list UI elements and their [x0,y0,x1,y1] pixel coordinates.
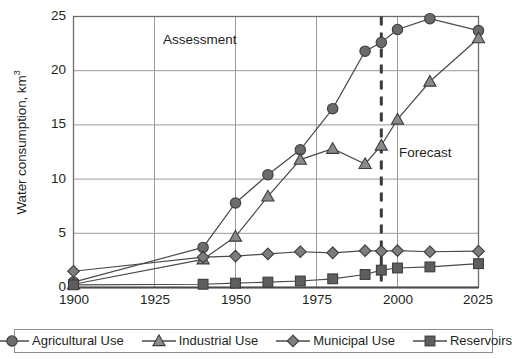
data-point-triangle [375,139,387,150]
data-point-circle [230,198,240,208]
data-point-circle [425,13,435,23]
data-point-triangle [153,335,165,346]
data-point-square [474,259,484,269]
data-point-diamond [262,248,274,260]
data-point-square [198,279,208,289]
data-point-triangle [327,143,339,154]
legend-item-municipal-use[interactable]: Municipal Use [276,333,395,349]
legend-item-industrial-use[interactable]: Industrial Use [142,333,258,349]
data-point-circle [392,24,402,34]
chart-legend: Agricultural UseIndustrial UseMunicipal … [14,329,493,353]
data-point-circle [376,37,386,47]
legend-item-reservoirs[interactable]: Reservoirs [413,333,512,349]
data-point-diamond [359,245,371,257]
data-point-square [69,280,79,290]
data-point-diamond [295,246,307,258]
series-line [74,264,479,285]
data-point-square [393,263,403,273]
data-point-circle [263,170,273,180]
data-point-diamond [68,265,80,277]
data-point-square [425,262,435,272]
data-point-circle [360,46,370,56]
data-point-square [328,274,338,284]
series-municipal-use [68,245,485,277]
data-point-square [263,277,273,287]
legend-marker-square-icon [413,333,447,349]
data-point-diamond [327,247,339,259]
data-point-diamond [424,246,436,258]
data-point-square [360,270,370,280]
data-point-triangle [294,153,306,164]
series-line [74,38,479,284]
legend-marker-circle-icon [0,333,29,349]
data-point-diamond [376,245,388,257]
data-point-square [295,276,305,286]
data-point-square [376,265,386,275]
annotation-forecast: Forecast [399,145,452,160]
legend-item-label: Reservoirs [450,334,512,348]
legend-item-label: Industrial Use [179,334,258,348]
data-point-diamond [473,245,485,257]
legend-item-label: Agricultural Use [32,334,124,348]
series-line [74,251,479,272]
data-point-circle [328,103,338,113]
legend-item-agricultural-use[interactable]: Agricultural Use [0,333,124,349]
annotation-assessment: Assessment [163,32,237,47]
legend-item-label: Municipal Use [313,334,395,348]
legend-marker-triangle-icon [142,333,176,349]
data-point-square [425,336,435,346]
data-point-circle [7,336,17,346]
data-point-square [231,278,241,288]
data-point-diamond [392,245,404,257]
series-reservoirs [69,259,484,290]
data-point-diamond [287,335,299,347]
legend-marker-diamond-icon [276,333,310,349]
data-point-diamond [230,250,242,262]
